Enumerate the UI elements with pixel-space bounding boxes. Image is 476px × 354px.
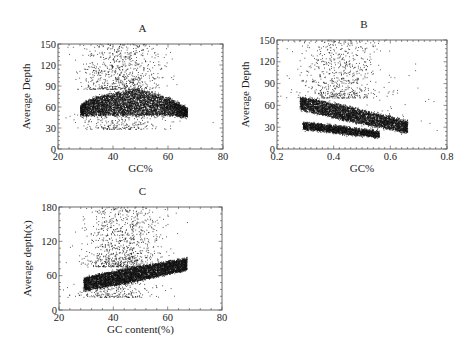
- y-tick-label: 90: [46, 81, 57, 92]
- scatter-points: [280, 40, 437, 139]
- y-axis-title: Average depth(x): [21, 220, 34, 297]
- y-tick-label: 60: [265, 100, 276, 111]
- y-tick-label: 0: [52, 305, 57, 316]
- x-tick-label: 0.6: [384, 151, 397, 162]
- figure: 204060800306090120150AGC%Average Depth0.…: [0, 0, 476, 354]
- x-tick-label: 40: [108, 312, 119, 323]
- scatter-panel-c: 20406080060120180CGC content(%)Average d…: [21, 185, 227, 336]
- x-tick-label: 40: [108, 151, 119, 162]
- y-tick-label: 90: [265, 78, 276, 89]
- y-axis-title: Average Depth: [20, 63, 32, 130]
- y-tick-label: 30: [265, 122, 276, 133]
- panel-title: B: [360, 18, 367, 30]
- x-axis-title: GC%: [128, 162, 152, 174]
- x-axis-title: GC content(%): [107, 323, 174, 336]
- y-tick-label: 60: [46, 102, 57, 113]
- x-tick-label: 60: [162, 312, 173, 323]
- panel-title: A: [139, 22, 147, 34]
- y-axis-title: Average Depth: [239, 61, 251, 128]
- y-tick-label: 150: [40, 39, 56, 50]
- scatter-points: [66, 44, 214, 129]
- y-tick-label: 120: [41, 236, 57, 247]
- y-tick-label: 0: [51, 144, 56, 155]
- x-tick-label: 0.8: [440, 151, 453, 162]
- y-tick-label: 60: [47, 270, 58, 281]
- scatter-panel-b: 0.20.40.60.80306090120150BGC%Average Dep…: [239, 18, 454, 174]
- y-tick-label: 120: [259, 56, 275, 67]
- y-tick-label: 120: [40, 60, 56, 71]
- x-tick-label: 80: [217, 312, 228, 323]
- y-tick-label: 30: [46, 123, 57, 134]
- scatter-panel-a: 204060800306090120150AGC%Average Depth: [20, 22, 228, 174]
- y-tick-label: 0: [270, 144, 275, 155]
- x-tick-label: 0.4: [327, 151, 341, 162]
- x-tick-label: 80: [218, 151, 229, 162]
- x-axis-title: GC%: [350, 162, 374, 174]
- axis-ticks: [59, 207, 222, 310]
- scatter-points: [59, 207, 188, 297]
- panel-title: C: [139, 185, 146, 197]
- y-tick-label: 150: [259, 35, 275, 46]
- plot-frame: [59, 207, 222, 310]
- x-tick-label: 60: [163, 151, 174, 162]
- y-tick-label: 180: [41, 202, 57, 213]
